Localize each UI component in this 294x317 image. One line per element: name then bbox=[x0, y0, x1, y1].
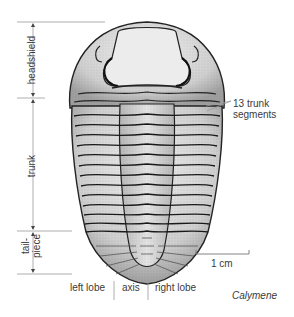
segments-note-line2: segments bbox=[233, 109, 276, 120]
label-left-lobe: left lobe bbox=[70, 283, 105, 293]
label-axis: axis bbox=[122, 283, 140, 293]
label-trunk: trunk bbox=[27, 146, 39, 186]
label-tailpiece: tail- piece bbox=[20, 228, 44, 264]
trilobite-body bbox=[70, 22, 225, 284]
label-headshield: headshield bbox=[27, 30, 39, 90]
label-right-lobe: right lobe bbox=[155, 283, 196, 293]
label-tailpiece-line1: tail- bbox=[20, 228, 31, 264]
segments-note: 13 trunk segments bbox=[233, 98, 276, 120]
genus-caption: Calymene bbox=[232, 291, 277, 301]
segments-note-line1: 13 trunk bbox=[233, 98, 276, 109]
scale-bar bbox=[196, 250, 249, 254]
scale-bar-label: 1 cm bbox=[211, 259, 233, 269]
trilobite-illustration bbox=[0, 0, 294, 317]
label-tailpiece-line2: piece bbox=[31, 228, 42, 264]
